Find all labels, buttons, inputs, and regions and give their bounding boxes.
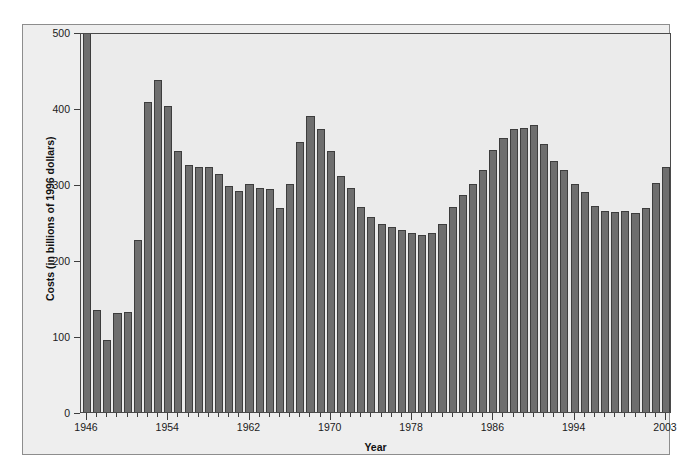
- y-axis-title: Costs (in billions of 1996 dollars): [44, 136, 56, 301]
- bar: [195, 167, 203, 412]
- bar: [357, 207, 365, 412]
- bar: [256, 188, 264, 412]
- bar: [388, 227, 396, 412]
- bar: [327, 151, 335, 412]
- bar: [306, 116, 314, 412]
- bar: [266, 189, 274, 412]
- bar: [662, 167, 670, 412]
- bar: [215, 174, 223, 412]
- bar: [449, 207, 457, 412]
- bar: [418, 235, 426, 412]
- bar: [286, 184, 294, 412]
- bar: [317, 129, 325, 412]
- bar: [560, 170, 568, 412]
- bar: [530, 125, 538, 412]
- bar: [367, 217, 375, 412]
- bar: [479, 170, 487, 412]
- bar: [428, 233, 436, 412]
- bar: [642, 208, 650, 412]
- bar: [347, 188, 355, 412]
- bar: [185, 165, 193, 412]
- x-axis-title: Year: [316, 441, 436, 453]
- bar: [540, 144, 548, 412]
- bar: [408, 233, 416, 412]
- plot-area: [80, 33, 671, 413]
- bar: [174, 151, 182, 412]
- bar: [164, 106, 172, 412]
- bar: [438, 224, 446, 412]
- bar: [144, 102, 152, 412]
- bar: [276, 208, 284, 412]
- bar: [621, 211, 629, 412]
- bar: [591, 206, 599, 412]
- bar: [124, 312, 132, 412]
- bar: [235, 191, 243, 412]
- bar: [296, 142, 304, 412]
- chart-page: 0100200300400500194619541962197019781986…: [0, 0, 694, 475]
- scan-artifact-strip: [0, 0, 694, 12]
- bar-series: [81, 34, 670, 412]
- bar: [113, 313, 121, 412]
- bar: [103, 340, 111, 412]
- bar: [93, 310, 101, 412]
- bar: [499, 138, 507, 412]
- bar: [520, 128, 528, 412]
- bar: [469, 184, 477, 412]
- bar: [398, 230, 406, 412]
- bar: [205, 167, 213, 412]
- bar: [550, 161, 558, 412]
- bar: [631, 213, 639, 412]
- bar: [652, 183, 660, 412]
- bar: [83, 34, 91, 412]
- bar: [378, 224, 386, 412]
- bar: [571, 184, 579, 412]
- bar: [337, 176, 345, 412]
- bar: [134, 240, 142, 412]
- bar: [510, 129, 518, 412]
- bar: [581, 192, 589, 412]
- bar: [611, 212, 619, 412]
- bar: [225, 186, 233, 412]
- bar: [154, 80, 162, 412]
- bar: [459, 195, 467, 412]
- bar: [601, 211, 609, 412]
- bar: [245, 184, 253, 412]
- bar: [489, 150, 497, 412]
